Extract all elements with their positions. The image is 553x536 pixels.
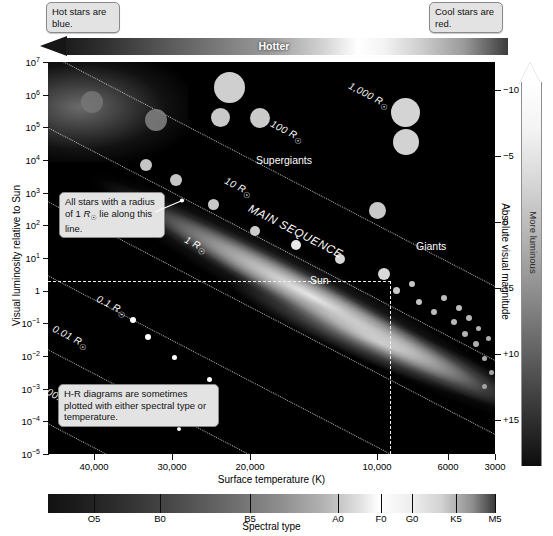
x-tick-label: 40,000	[59, 461, 129, 472]
spectral-tick	[160, 494, 161, 513]
star-point	[393, 287, 400, 294]
x-tick-label: 10,000	[342, 461, 412, 472]
spectral-tick	[94, 494, 95, 513]
star-point	[416, 299, 422, 305]
star-point	[291, 240, 301, 250]
star-point	[489, 370, 494, 375]
radius-one-rsun-callout: All stars with a radius of 1 R☉ lie alon…	[59, 192, 165, 238]
star-point	[451, 319, 457, 325]
y-tick-label: 10−2	[0, 350, 40, 362]
y2-tick-label: +5	[503, 282, 514, 293]
spectral-tick	[456, 494, 457, 513]
x-tick	[172, 454, 173, 460]
y-tick	[43, 193, 49, 194]
y2-tick	[495, 222, 501, 223]
cool-stars-callout: Cool stars are red.	[429, 2, 503, 33]
x-tick	[495, 454, 496, 460]
y-tick	[43, 62, 49, 63]
star-point	[211, 108, 230, 127]
star-point	[170, 174, 182, 186]
spectral-tick-label: B0	[140, 513, 180, 524]
star-point	[462, 331, 468, 337]
star-point	[476, 326, 481, 331]
y-tick-label: 105	[0, 121, 40, 133]
y2-tick-label: −5	[503, 150, 514, 161]
y2-tick	[495, 288, 501, 289]
sun-vertical-guide	[390, 281, 391, 454]
spectral-tick	[381, 494, 382, 513]
more-luminous-arrow: More luminous	[521, 62, 540, 466]
spectral-tick-label: G0	[392, 513, 432, 524]
star-point	[145, 334, 151, 340]
x-tick	[250, 454, 251, 460]
y-tick	[43, 291, 49, 292]
hot-stars-callout: Hot stars are blue.	[46, 2, 120, 33]
y2-tick-label: +10	[503, 348, 519, 359]
y2-axis-title: Absolute visual magnitude	[500, 162, 511, 362]
supergiants-label: Supergiants	[256, 154, 312, 166]
x-tick-label: 3000	[460, 461, 530, 472]
star-point	[409, 281, 415, 287]
star-point	[207, 377, 212, 382]
star-point	[250, 108, 270, 128]
x-axis-title: Surface temperature (K)	[48, 474, 495, 485]
y2-tick-label: +15	[503, 414, 519, 425]
spectral-tick	[495, 494, 496, 513]
star-point	[482, 356, 487, 361]
y2-tick	[495, 156, 501, 157]
y2-tick	[495, 90, 501, 91]
y-tick-label: 101	[0, 252, 40, 264]
y-tick-label: 10−5	[0, 448, 40, 460]
star-point	[81, 91, 103, 113]
hotter-label: Hotter	[40, 38, 508, 55]
y2-tick-label: 0	[503, 216, 508, 227]
y-tick-label: 1	[0, 285, 40, 296]
spectral-tick	[338, 494, 339, 513]
y-tick	[43, 454, 49, 455]
star-point	[391, 98, 420, 127]
hr-diagram-note-callout: H-R diagrams are sometimes plotted with …	[58, 384, 219, 427]
hotter-arrow: Hotter	[40, 38, 508, 55]
star-point	[214, 72, 245, 103]
spectral-tick-label: B5	[230, 513, 270, 524]
star-point	[130, 317, 136, 323]
y-tick	[43, 127, 49, 128]
x-tick-label: 20,000	[215, 461, 285, 472]
star-point	[486, 336, 491, 341]
star-point	[369, 202, 386, 219]
spectral-tick-label: M5	[475, 513, 515, 524]
y-tick	[43, 356, 49, 357]
star-point	[482, 384, 487, 389]
star-point	[431, 309, 437, 315]
y-tick	[43, 421, 49, 422]
spectral-type-bar	[48, 494, 495, 513]
y-tick-label: 104	[0, 154, 40, 166]
y-tick	[43, 389, 49, 390]
y-tick	[43, 160, 49, 161]
spectral-tick-label: O5	[74, 513, 114, 524]
x-tick	[377, 454, 378, 460]
y2-tick	[495, 420, 501, 421]
y-tick-label: 10−3	[0, 383, 40, 395]
upper-left-glow	[48, 62, 188, 162]
spectral-tick	[250, 494, 251, 513]
star-point	[473, 341, 479, 347]
x-tick	[94, 454, 95, 460]
spectral-tick-label: K5	[436, 513, 476, 524]
y-tick	[43, 323, 49, 324]
star-point	[177, 427, 181, 431]
star-point	[393, 129, 419, 155]
spectral-tick	[412, 494, 413, 513]
x-tick-label: 30,000	[137, 461, 207, 472]
y-tick	[43, 225, 49, 226]
star-point	[250, 226, 260, 236]
y-tick-label: 102	[0, 219, 40, 231]
more-luminous-label: More luminous	[528, 153, 539, 333]
star-point	[208, 199, 219, 210]
luminous-arrowhead-icon	[519, 62, 541, 84]
y-tick-label: 10−4	[0, 415, 40, 427]
y-tick-label: 106	[0, 89, 40, 101]
star-point	[172, 355, 177, 360]
sun-label: Sun	[310, 274, 329, 286]
star-point	[145, 109, 167, 131]
